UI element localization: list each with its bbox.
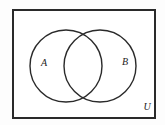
- set-a-label: A: [40, 57, 48, 68]
- universal-set-label: U: [143, 101, 151, 112]
- universal-set-rect: [13, 10, 155, 118]
- set-b-label: B: [122, 56, 128, 67]
- venn-diagram-canvas: A B U: [0, 0, 165, 125]
- venn-diagram: A B U: [0, 0, 165, 125]
